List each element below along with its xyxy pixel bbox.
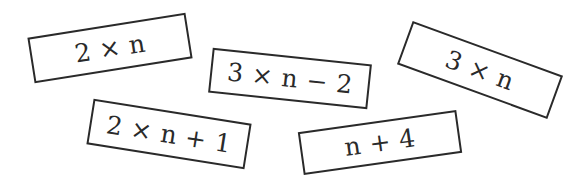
expression-text: 3 × n − 2 bbox=[226, 59, 354, 97]
expression-card-2n: 2 × n bbox=[27, 13, 192, 83]
expression-text: 3 × n bbox=[442, 46, 518, 94]
expression-text: n + 4 bbox=[343, 125, 417, 160]
expression-card-3n: 3 × n bbox=[397, 21, 563, 119]
expression-card-3n-minus-2: 3 × n − 2 bbox=[208, 48, 372, 109]
expression-card-2n-plus-1: 2 × n + 1 bbox=[86, 99, 251, 169]
expression-text: 2 × n + 1 bbox=[105, 112, 233, 156]
expression-card-n-plus-4: n + 4 bbox=[298, 110, 462, 175]
expression-text: 2 × n bbox=[73, 30, 147, 66]
